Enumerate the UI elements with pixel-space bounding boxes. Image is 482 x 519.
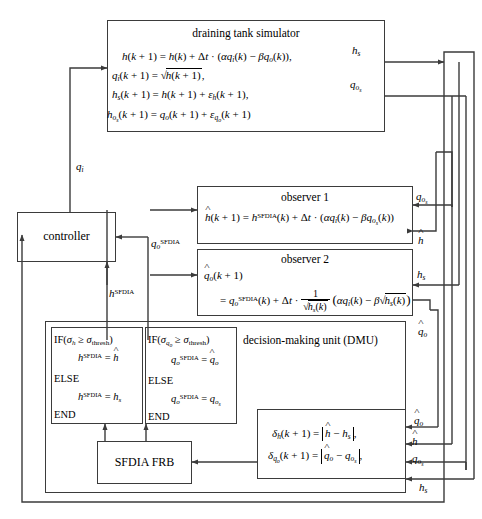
dmu-rule-q-box: IF(σqo ≥ σthresh) qoSFDIA = qo ELSE qoSF… <box>145 327 237 424</box>
observer1-title: observer 1 <box>198 191 412 203</box>
residual-equation-1: δh(k + 1) = h − hs, <box>272 427 356 441</box>
rule-h-if: IF(σh ≥ σthresh) <box>54 334 113 347</box>
dmu-title: decision-making unit (DMU) <box>243 334 378 346</box>
simulator-block: draining tank simulator h(k + 1) = h(k) … <box>107 20 385 132</box>
residual-equation-2: δqo(k + 1) = qo − qos, <box>268 449 362 464</box>
rule-q-then: qoSFDIA = qo <box>171 354 219 367</box>
sfdia-frb-label: SFDIA FRB <box>98 455 191 470</box>
signal-label-qos-top: qos <box>350 78 362 93</box>
rule-h-then: hSFDIA = h <box>78 352 118 363</box>
signal-label-qo-sfdia: qoSFDIA <box>151 237 180 251</box>
observer2-equation-line2: = qoSFDIA(k) + Δt · 1√hs(k) (αqi(k) − β√… <box>220 288 411 314</box>
dmu-rule-h-box: IF(σh ≥ σthresh) hSFDIA = h ELSE hSFDIA … <box>51 327 143 424</box>
signal-label-qhat-o-right: qo <box>418 325 427 339</box>
simulator-equation-4: hos(k + 1) = qo(k + 1) + εqo(k + 1) <box>107 108 251 123</box>
observer2-block: observer 2 qo(k + 1) = qoSFDIA(k) + Δt ·… <box>197 249 413 316</box>
rule-h-end: END <box>54 409 76 420</box>
feedback-label-hhat: h <box>412 435 418 447</box>
block-diagram: draining tank simulator h(k + 1) = h(k) … <box>0 0 482 519</box>
observer1-block: observer 1 h(k + 1) = hSFDIA(k) + Δt · (… <box>197 186 413 244</box>
observer2-title: observer 2 <box>198 253 412 265</box>
signal-label-hs-right: hs <box>417 268 425 282</box>
signal-label-hs-top: hs <box>352 44 360 58</box>
rule-q-else-body: qoSFDIA = qos <box>171 393 221 407</box>
simulator-equation-3: hs(k + 1) = h(k + 1) + εh(k + 1), <box>112 88 248 102</box>
rule-q-else: ELSE <box>148 375 173 386</box>
signal-label-hhat-right: h <box>418 234 424 246</box>
rule-h-else: ELSE <box>54 373 79 384</box>
signal-label-qi: qi <box>76 160 84 174</box>
simulator-equation-1: h(k + 1) = h(k) + Δt · (αqi(k) − βqo(k))… <box>122 50 292 64</box>
rule-h-else-body: hSFDIA = hs <box>78 391 121 404</box>
rule-q-end: END <box>148 411 170 422</box>
simulator-equation-2: qi(k + 1) = √h(k + 1), <box>112 68 204 83</box>
simulator-title: draining tank simulator <box>108 27 384 39</box>
sfdia-frb-block: SFDIA FRB <box>97 441 192 484</box>
rule-q-if: IF(σqo ≥ σthresh) <box>148 334 210 348</box>
feedback-label-qhat-o: qo <box>414 414 423 428</box>
feedback-label-hs: hs <box>419 481 427 495</box>
signal-label-h-sfdia: hSFDIA <box>109 287 134 299</box>
observer2-equation-line1: qo(k + 1) <box>204 269 243 283</box>
signal-label-qos-right: qos <box>416 190 428 205</box>
dmu-residual-box: δh(k + 1) = h − hs, δqo(k + 1) = qo − qo… <box>257 409 406 479</box>
controller-block: controller <box>17 212 116 262</box>
controller-label: controller <box>18 229 115 244</box>
observer1-equation: h(k + 1) = hSFDIA(k) + Δt · (αqi(k) − βq… <box>205 211 394 226</box>
feedback-label-qos: qos <box>412 452 424 467</box>
